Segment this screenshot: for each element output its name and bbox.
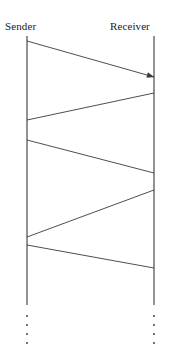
message-line-4 [27, 190, 154, 237]
continuation-dot-sender-4 [26, 342, 28, 344]
continuation-dot-sender-3 [26, 333, 28, 335]
continuation-dots-group [26, 315, 155, 344]
message-line-5 [27, 245, 154, 268]
diagram-canvas [0, 0, 179, 362]
message-line-2 [27, 93, 154, 120]
continuation-dot-sender-2 [26, 324, 28, 326]
continuation-dot-receiver-4 [153, 342, 155, 344]
message-arrowhead-1 [147, 73, 154, 78]
continuation-dot-receiver-1 [153, 315, 155, 317]
message-line-3 [27, 140, 154, 173]
message-line-1 [27, 41, 154, 77]
sequence-diagram: Sender Receiver [0, 0, 179, 362]
continuation-dot-receiver-3 [153, 333, 155, 335]
continuation-dot-receiver-2 [153, 324, 155, 326]
messages-group [27, 41, 154, 268]
continuation-dot-sender-1 [26, 315, 28, 317]
